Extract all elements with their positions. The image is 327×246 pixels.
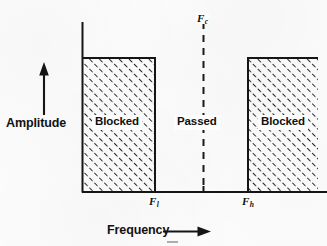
- marker-symbol-fc: F: [197, 12, 204, 24]
- y-axis-title: Amplitude: [6, 117, 66, 130]
- marker-subscript-fl: l: [157, 200, 159, 209]
- region-label-passed: Passed: [174, 115, 220, 130]
- marker-label-fh: Fh: [241, 196, 255, 207]
- region-label-blocked-high: Blocked: [258, 115, 308, 130]
- right-arrow-icon: [163, 227, 211, 237]
- marker-symbol-fl: F: [149, 195, 156, 207]
- marker-subscript-fh: h: [250, 200, 254, 209]
- up-arrow-icon: [39, 62, 49, 115]
- marker-label-fc: Fc: [196, 13, 209, 24]
- marker-symbol-fh: F: [242, 195, 249, 207]
- x-axis-title: Frequency: [107, 224, 169, 237]
- marker-label-fl: Fl: [148, 196, 159, 207]
- filter-response-figure: Amplitude Frequency Blocked Passed Block…: [0, 0, 327, 246]
- region-label-blocked-low: Blocked: [92, 115, 142, 130]
- marker-subscript-fc: c: [205, 17, 208, 26]
